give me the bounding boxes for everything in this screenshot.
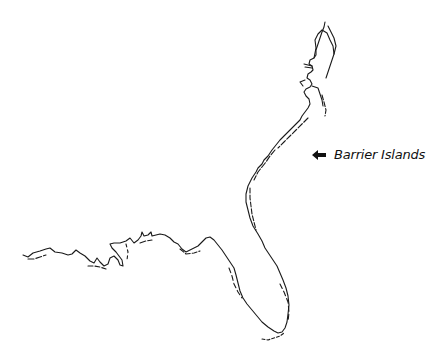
barrier-islands-mississippi (88, 266, 106, 269)
delta-dashed-edge (126, 244, 128, 260)
james-inlet (312, 86, 323, 106)
potomac-inlet-2 (305, 67, 312, 68)
barrier-islands-carolinas (278, 118, 308, 148)
coastline-map (0, 0, 447, 357)
barrier-islands-gulf-west (28, 255, 46, 259)
barrier-islands-panhandle (140, 240, 152, 243)
barrier-islands-georgia (254, 150, 275, 180)
delmarva-coast (328, 26, 336, 54)
florida-keys (262, 333, 284, 340)
chesapeake-shore (314, 30, 334, 78)
mainland-coastline (23, 22, 325, 333)
inner-bay-shore (300, 80, 305, 86)
barrier-islands-florida-east (250, 188, 256, 230)
arrow-left-icon (312, 150, 326, 160)
barrier-islands-label: Barrier Islands (334, 147, 425, 162)
